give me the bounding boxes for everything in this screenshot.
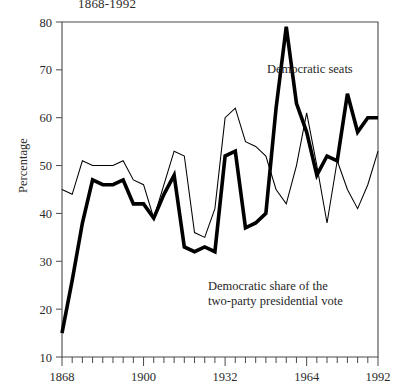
y-tick-label: 60 bbox=[40, 111, 53, 125]
x-tick-label: 1868 bbox=[50, 370, 75, 384]
y-tick-label: 10 bbox=[40, 351, 53, 365]
y-axis-ticks bbox=[56, 22, 62, 357]
y-tick-label: 50 bbox=[40, 159, 53, 173]
y-tick-label: 20 bbox=[40, 303, 53, 317]
x-tick-label: 1964 bbox=[294, 370, 320, 384]
annotation-democratic-seats: Democratic seats bbox=[267, 62, 353, 76]
annotation-vote-line1: Democratic share of the bbox=[208, 279, 328, 293]
y-tick-label: 40 bbox=[40, 207, 53, 221]
x-tick-label: 1900 bbox=[131, 370, 156, 384]
y-axis-tick-labels: 1020304050607080 bbox=[40, 16, 53, 365]
line-chart: 1020304050607080 18681900193219641992 De… bbox=[0, 0, 394, 386]
figure-container: 1868-1992 Percentage 1020304050607080 18… bbox=[0, 0, 394, 386]
y-tick-label: 70 bbox=[40, 63, 53, 77]
y-tick-label: 80 bbox=[40, 16, 53, 30]
x-axis-ticks bbox=[62, 357, 378, 366]
x-tick-label: 1992 bbox=[366, 370, 391, 384]
x-tick-label: 1932 bbox=[213, 370, 238, 384]
y-tick-label: 30 bbox=[40, 255, 53, 269]
x-axis-tick-labels: 18681900193219641992 bbox=[50, 370, 391, 384]
annotation-vote-line2: two-party presidential vote bbox=[208, 294, 343, 308]
